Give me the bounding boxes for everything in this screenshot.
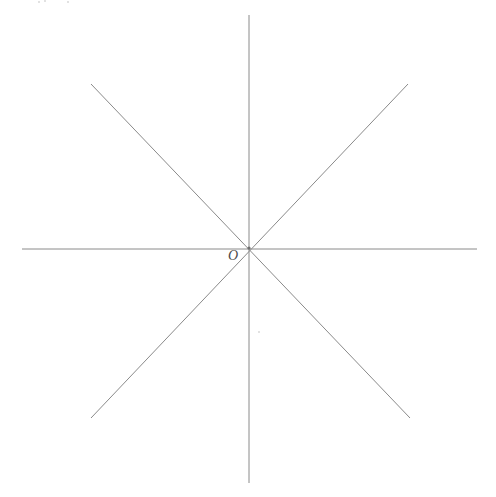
scan-speck-top-b bbox=[44, 0, 46, 2]
origin-label: O bbox=[228, 249, 238, 263]
scan-speck-mid bbox=[258, 331, 260, 333]
origin-point bbox=[247, 246, 250, 249]
scan-speck-top-a bbox=[38, 1, 40, 3]
figure-canvas: O bbox=[0, 0, 496, 497]
scan-speck-top-c bbox=[67, 1, 69, 3]
origin-dot bbox=[247, 246, 250, 249]
line-drawing bbox=[0, 0, 496, 497]
